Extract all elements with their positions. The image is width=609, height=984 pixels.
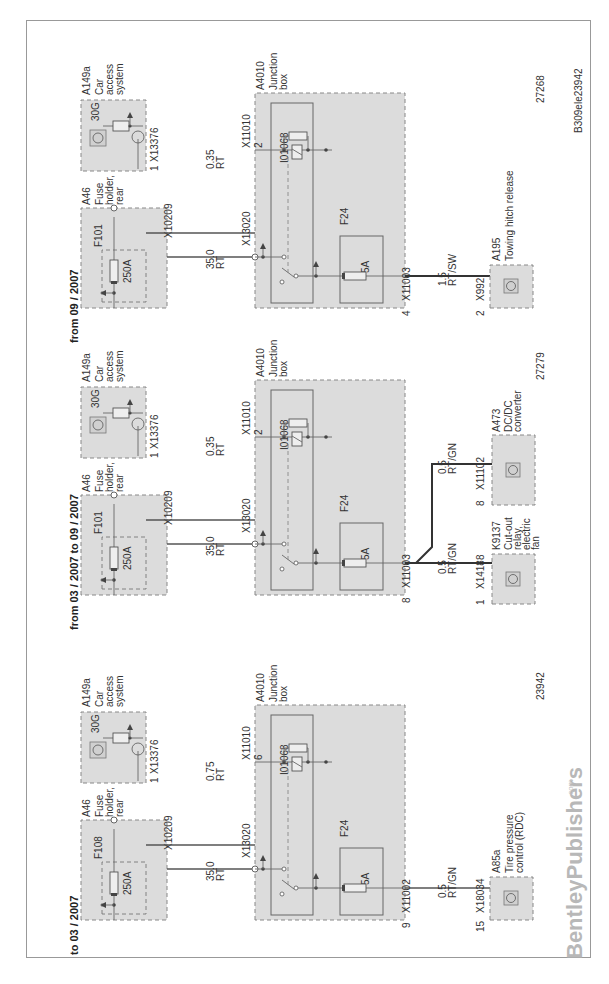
svg-text:RT: RT (215, 868, 226, 881)
control-unit-icon (90, 130, 106, 146)
connector-label: X11010 (241, 114, 252, 148)
control-unit-icon (90, 742, 106, 758)
pin-label: 1 (475, 599, 486, 605)
section-title: to 03 / 2007 (68, 896, 80, 955)
figure-number: 27279 (535, 352, 546, 380)
fuse-rating: 5A (360, 260, 371, 273)
connector-label: X992 (475, 277, 486, 301)
connector-label: X18034 (475, 878, 486, 913)
terminal-label: 30G (90, 389, 101, 408)
component-id: A473 (491, 408, 502, 432)
figure-number: 23942 (535, 672, 546, 700)
bentley-publishers-watermark: BentleyPublishers .com (562, 767, 587, 959)
svg-text:system: system (114, 63, 125, 95)
svg-text:converter: converter (512, 390, 523, 432)
connector-label: X13020 (241, 823, 252, 858)
svg-text:system: system (114, 350, 125, 382)
component-id: A149a (81, 353, 92, 382)
resistor-icon (289, 419, 307, 427)
fuse-icon (110, 547, 118, 569)
svg-text:rear: rear (114, 799, 125, 817)
connector-icon (111, 205, 117, 211)
fuse-icon (344, 272, 366, 280)
pin-label: 8 (401, 597, 412, 603)
svg-text:RT: RT (215, 156, 226, 169)
svg-text:system: system (114, 675, 125, 707)
svg-text:RT: RT (215, 256, 226, 269)
component-id: A149a (81, 678, 92, 707)
component-id: A46 (81, 187, 92, 205)
svg-text:box: box (278, 361, 289, 377)
connector-label: X13020 (241, 211, 252, 246)
pin-label: 2 (475, 310, 486, 316)
connector-label: X13376 (149, 127, 160, 162)
svg-text:RT: RT (215, 768, 226, 781)
pin-label: 2 (253, 429, 264, 435)
fuse-icon (110, 872, 118, 894)
pin-label: 6 (253, 754, 264, 760)
terminal-label: 30G (90, 102, 101, 121)
component-id: A46 (81, 799, 92, 817)
connector-label: X13020 (241, 498, 252, 533)
resistor-icon (289, 132, 307, 140)
fuse-id: F24 (339, 494, 350, 512)
connector-icon (111, 817, 117, 823)
connector-icon (111, 492, 117, 498)
fuse-rating: 250A (122, 871, 133, 895)
section-title: from 03 / 2007 to 09 / 2007 (68, 494, 80, 630)
connector-label: X13376 (149, 739, 160, 774)
pin-label: 9 (401, 922, 412, 928)
fuse-icon (344, 559, 366, 567)
svg-text:fan: fan (530, 536, 541, 550)
figure-number: 27268 (535, 75, 546, 103)
svg-text:RT/GN: RT/GN (447, 443, 458, 474)
pin-label: 15 (475, 920, 486, 932)
connector-label: X11002 (401, 879, 412, 913)
connector-label: X11010 (241, 401, 252, 435)
svg-text:rear: rear (114, 187, 125, 205)
component-id: A4010 (255, 673, 266, 702)
connector-label: X11010 (241, 726, 252, 760)
svg-text:.com: .com (566, 779, 575, 797)
component-id: A4010 (255, 348, 266, 377)
fuse-id: F101 (93, 511, 104, 534)
component-id: A195 (491, 237, 502, 261)
svg-text:rear: rear (114, 474, 125, 492)
pin-label: 2 (253, 142, 264, 148)
svg-text:box: box (278, 74, 289, 90)
component-id: K9137 (491, 521, 502, 550)
svg-text:Towing hitch release: Towing hitch release (504, 170, 515, 261)
component-id: A85a (491, 849, 502, 873)
svg-text:RT/GN: RT/GN (447, 543, 458, 574)
terminal-label: 30G (90, 714, 101, 733)
pin-label: 4 (401, 310, 412, 316)
fuse-id: F101 (93, 224, 104, 247)
svg-text:control (RDC): control (RDC) (514, 812, 525, 873)
connector-label: X11003 (401, 554, 412, 588)
document-id: B309ele23942 (573, 68, 584, 133)
connector-label: X14188 (475, 554, 486, 589)
svg-text:RT/GN: RT/GN (447, 867, 458, 898)
pin-label: 1 (149, 165, 160, 171)
pin-label: 1 (149, 452, 160, 458)
fuse-rating: 5A (360, 872, 371, 885)
component-id: A4010 (255, 61, 266, 90)
connector-label: X11003 (401, 267, 412, 301)
component-id: A149a (81, 66, 92, 95)
fuse-rating: 250A (122, 259, 133, 283)
fuse-id: F24 (339, 819, 350, 837)
connector-label: X13376 (149, 414, 160, 449)
section-title: from 09 / 2007 (68, 270, 80, 343)
fuse-id: F24 (339, 207, 350, 225)
svg-text:RT: RT (215, 543, 226, 556)
component-id: A46 (81, 474, 92, 492)
control-unit-icon (90, 417, 106, 433)
fuse-icon (344, 884, 366, 892)
fuse-rating: 5A (360, 547, 371, 560)
resistor-icon (289, 744, 307, 752)
pin-label: 1 (149, 777, 160, 783)
fuse-icon (110, 260, 118, 282)
fuse-rating: 250A (122, 546, 133, 570)
connector-label: X11102 (475, 457, 486, 490)
wiring-diagram: to 03 / 2007 250A F108 A46 Fuse holder, … (0, 0, 609, 984)
